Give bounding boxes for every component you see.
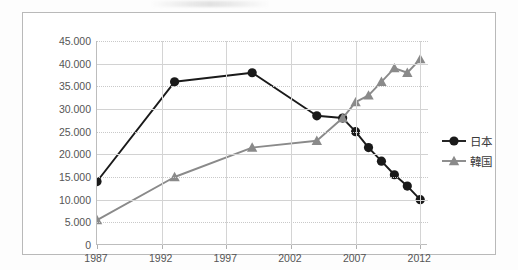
y-axis-tick-label: 10.000 [59,195,91,205]
gridline-vertical [356,41,357,245]
chart-border-box: 45.00040.00035.00030.00025.00020.00015.0… [22,12,496,255]
x-axis-tick-label: 1992 [139,253,183,264]
data-point-marker [377,157,386,166]
y-axis-tick-label: 45.000 [59,36,91,46]
gridline-vertical [420,41,421,245]
x-axis-tick [420,245,421,249]
data-point-marker [312,111,321,120]
gridline-vertical [226,41,227,245]
data-point-marker [97,177,102,186]
y-axis-tick-label: 0 [85,240,91,250]
y-axis-tick-label: 30.000 [59,104,91,114]
y-axis-tick-label: 40.000 [59,59,91,69]
x-axis-tick [162,245,163,249]
y-axis-tick-label: 5.000 [65,217,91,227]
y-axis-tick-label: 35.000 [59,81,91,91]
legend-marker-icon [441,154,467,168]
legend-label: 韓国 [470,153,492,169]
data-point-marker [449,136,458,145]
plot-area [96,41,427,245]
gridline-horizontal [97,154,428,155]
gridline-horizontal [97,177,428,178]
legend-item-korea: 韓国 [441,151,513,171]
legend-label: 日本 [470,133,492,149]
data-point-marker [364,143,373,152]
gridline-horizontal [97,200,428,201]
gridline-vertical [291,41,292,245]
legend-item-japan: 日本 [441,131,513,151]
x-axis-tick-label: 2012 [397,253,441,264]
cropped-title-trace [150,1,270,7]
gridline-vertical [162,41,163,245]
x-axis-tick [97,245,98,249]
data-point-marker [403,181,412,190]
y-axis-tick-label: 20.000 [59,149,91,159]
data-point-marker [248,68,257,77]
gridline-horizontal [97,86,428,87]
gridline-horizontal [97,132,428,133]
x-axis-tick-label: 2007 [333,253,377,264]
data-point-marker [170,77,179,86]
y-axis-labels: 45.00040.00035.00030.00025.00020.00015.0… [23,41,91,245]
x-axis-tick-label: 2002 [268,253,312,264]
chart-legend: 日本韓国 [441,131,513,171]
x-axis-tick [356,245,357,249]
gridline-horizontal [97,222,428,223]
x-axis-tick-label: 1987 [74,253,118,264]
gridline-horizontal [97,109,428,110]
y-axis-tick-label: 25.000 [59,127,91,137]
gridline-horizontal [97,41,428,42]
series-line [97,59,420,220]
chart-canvas: 45.00040.00035.00030.00025.00020.00015.0… [0,0,518,270]
gridline-horizontal [97,64,428,65]
series-svg [97,41,428,245]
legend-marker-icon [441,134,467,148]
y-axis-tick-label: 15.000 [59,172,91,182]
x-axis-tick-label: 1997 [203,253,247,264]
x-axis-tick [226,245,227,249]
x-axis-tick [291,245,292,249]
